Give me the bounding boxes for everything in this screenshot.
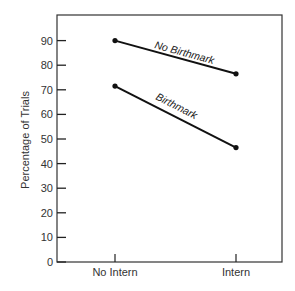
y-tick-80: 80 [41, 59, 53, 71]
line-chart: 0 10 20 30 40 50 60 70 80 90 Percentage … [0, 0, 295, 291]
x-label-intern: Intern [222, 266, 250, 278]
y-tick-20: 20 [41, 207, 53, 219]
y-axis-label: Percentage of Trials [19, 91, 31, 189]
y-tick-50: 50 [41, 133, 53, 145]
label-no-birthmark: No Birthmark [153, 38, 216, 66]
y-tick-70: 70 [41, 84, 53, 96]
y-tick-0: 0 [47, 256, 53, 268]
y-tick-40: 40 [41, 158, 53, 170]
series-no-birthmark: No Birthmark [112, 38, 238, 76]
x-axis-ticks [115, 254, 236, 262]
y-tick-10: 10 [41, 231, 53, 243]
point-no-birthmark-intern [233, 71, 238, 76]
point-birthmark-no-intern [112, 84, 117, 89]
y-tick-90: 90 [41, 35, 53, 47]
x-label-no-intern: No Intern [92, 266, 137, 278]
y-axis-tick-labels: 0 10 20 30 40 50 60 70 80 90 [41, 35, 53, 268]
y-tick-30: 30 [41, 182, 53, 194]
point-no-birthmark-no-intern [112, 38, 117, 43]
y-tick-60: 60 [41, 108, 53, 120]
series-birthmark: Birthmark [112, 84, 238, 151]
point-birthmark-intern [233, 145, 238, 150]
y-axis-ticks [57, 41, 66, 262]
